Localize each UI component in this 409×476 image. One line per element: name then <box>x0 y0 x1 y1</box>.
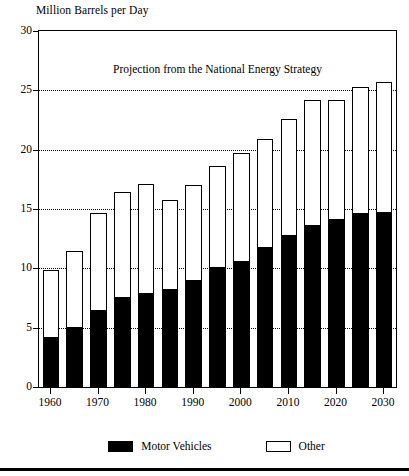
bar-segment-motor-vehicles-1990 <box>185 280 202 387</box>
bar-segment-motor-vehicles-1970 <box>90 310 107 387</box>
bar-segment-motor-vehicles-1965 <box>66 327 83 387</box>
legend-item-motor-vehicles: Motor Vehicles <box>108 440 211 452</box>
bar-segment-motor-vehicles-2000 <box>233 261 250 387</box>
bottom-rule <box>0 468 409 471</box>
y-tick-label-15: 15 <box>6 202 32 214</box>
legend-label-other: Other <box>299 440 325 452</box>
legend-item-other: Other <box>266 440 325 452</box>
plot-area: Projection from the National Energy Stra… <box>38 30 397 388</box>
x-tick-label-1960: 1960 <box>38 396 61 408</box>
x-tick-label-2030: 2030 <box>372 396 395 408</box>
x-tick-1990 <box>193 387 194 394</box>
bar-segment-motor-vehicles-1985 <box>162 289 179 387</box>
y-tick-10 <box>33 268 39 269</box>
x-tick-label-2020: 2020 <box>324 396 347 408</box>
gridline-25 <box>39 90 396 91</box>
bar-segment-motor-vehicles-1975 <box>114 297 131 387</box>
bar-segment-motor-vehicles-2025 <box>352 213 369 387</box>
y-tick-label-10: 10 <box>6 261 32 273</box>
bar-segment-motor-vehicles-2020 <box>328 219 345 387</box>
y-tick-30 <box>33 31 39 32</box>
bar-1995 <box>209 166 226 387</box>
bar-2030 <box>376 82 393 387</box>
bar-2010 <box>281 119 298 387</box>
chart-legend: Motor Vehicles Other <box>38 436 395 456</box>
bar-2015 <box>304 100 321 387</box>
x-tick-1970 <box>98 387 99 394</box>
x-tick-1980 <box>145 387 146 394</box>
bar-1965 <box>66 251 83 387</box>
bar-2025 <box>352 87 369 387</box>
x-tick-2030 <box>383 387 384 394</box>
bar-2020 <box>328 100 345 387</box>
y-tick-label-20: 20 <box>6 143 32 155</box>
y-tick-label-0: 0 <box>6 380 32 392</box>
bar-segment-motor-vehicles-1995 <box>209 267 226 387</box>
bar-2000 <box>233 153 250 387</box>
x-tick-2010 <box>288 387 289 394</box>
x-tick-2000 <box>240 387 241 394</box>
y-tick-label-30: 30 <box>6 24 32 36</box>
bar-segment-motor-vehicles-1980 <box>138 293 155 387</box>
y-tick-25 <box>33 90 39 91</box>
legend-swatch-motor-vehicles <box>108 441 133 452</box>
x-axis: 19601970198019902000201020202030 <box>38 387 395 417</box>
bar-1960 <box>43 270 60 387</box>
x-tick-label-2010: 2010 <box>276 396 299 408</box>
legend-label-motor-vehicles: Motor Vehicles <box>141 440 211 452</box>
bar-segment-motor-vehicles-2015 <box>304 225 321 387</box>
bar-segment-motor-vehicles-2030 <box>376 212 393 387</box>
bar-segment-motor-vehicles-2010 <box>281 235 298 387</box>
bar-segment-motor-vehicles-1960 <box>43 337 60 387</box>
chart-annotation: Projection from the National Energy Stra… <box>39 63 396 75</box>
legend-swatch-other <box>266 441 291 452</box>
bar-1985 <box>162 200 179 387</box>
chart-figure: Million Barrels per Day Projection from … <box>0 0 409 476</box>
y-tick-label-25: 25 <box>6 83 32 95</box>
x-tick-1960 <box>50 387 51 394</box>
bar-1970 <box>90 213 107 387</box>
x-tick-label-1970: 1970 <box>86 396 109 408</box>
bar-1975 <box>114 192 131 387</box>
bar-1980 <box>138 184 155 387</box>
y-axis-title: Million Barrels per Day <box>36 4 148 16</box>
bar-1990 <box>185 185 202 387</box>
y-tick-label-5: 5 <box>6 321 32 333</box>
x-tick-label-1980: 1980 <box>134 396 157 408</box>
x-tick-label-1990: 1990 <box>181 396 204 408</box>
y-tick-20 <box>33 150 39 151</box>
x-tick-label-2000: 2000 <box>229 396 252 408</box>
bar-2005 <box>257 139 274 387</box>
y-tick-5 <box>33 328 39 329</box>
bar-segment-motor-vehicles-2005 <box>257 247 274 387</box>
x-tick-2020 <box>336 387 337 394</box>
y-tick-15 <box>33 209 39 210</box>
